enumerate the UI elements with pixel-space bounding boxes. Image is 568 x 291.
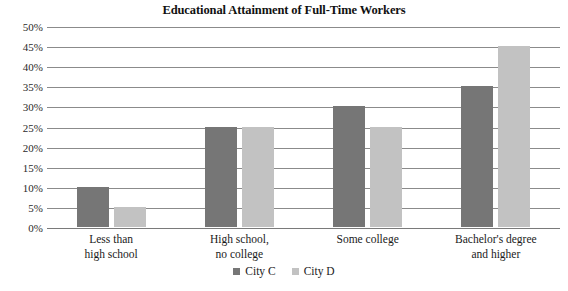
bar-city-d-2[interactable]: [370, 127, 402, 228]
bar-city-c-0[interactable]: [77, 187, 109, 227]
legend-swatch-icon: [292, 268, 299, 275]
chart-container: Educational Attainment of Full-Time Work…: [0, 0, 568, 291]
y-axis-tick-label: 10%: [0, 182, 43, 193]
y-axis-tick-label: 50%: [0, 22, 43, 33]
y-axis-tick-label: 25%: [0, 122, 43, 133]
y-axis-tick-label: 35%: [0, 82, 43, 93]
bar-group: [432, 27, 560, 228]
x-axis-category-label-line: Bachelor's degree: [432, 232, 560, 247]
legend-label: City C: [245, 265, 275, 278]
bars-layer: [47, 27, 560, 228]
x-axis-category-label: Bachelor's degreeand higher: [432, 232, 560, 262]
bar-city-d-3[interactable]: [498, 46, 530, 227]
x-axis-category-label: Less thanhigh school: [47, 232, 175, 262]
chart-title: Educational Attainment of Full-Time Work…: [0, 3, 568, 18]
legend-item-city-c[interactable]: City C: [233, 265, 275, 278]
bar-city-c-1[interactable]: [205, 127, 237, 228]
bar-city-c-3[interactable]: [461, 86, 493, 227]
x-axis-category-label-line: High school,: [175, 232, 303, 247]
y-axis-tick-label: 0%: [0, 223, 43, 234]
y-axis-tick-label: 15%: [0, 162, 43, 173]
x-axis-category-label: High school,no college: [175, 232, 303, 262]
y-axis-tick-label: 20%: [0, 142, 43, 153]
bar-group: [47, 27, 175, 228]
legend-swatch-icon: [233, 268, 240, 275]
y-axis: 50%45%40%35%30%25%20%15%10%5%0%: [0, 27, 43, 228]
x-axis: Less thanhigh schoolHigh school,no colle…: [47, 232, 560, 268]
bar-group: [304, 27, 432, 228]
bar-city-d-0[interactable]: [114, 207, 146, 227]
y-axis-tick-label: 5%: [0, 202, 43, 213]
x-axis-category-label-line: no college: [175, 247, 303, 262]
x-axis-category-label: Some college: [304, 232, 432, 247]
legend-label: City D: [304, 265, 335, 278]
y-axis-tick-label: 40%: [0, 62, 43, 73]
bar-group: [175, 27, 303, 228]
x-axis-category-label-line: and higher: [432, 247, 560, 262]
y-axis-tick-label: 45%: [0, 42, 43, 53]
bar-city-d-1[interactable]: [242, 127, 274, 228]
plot-area: [47, 27, 560, 228]
bar-city-c-2[interactable]: [333, 106, 365, 227]
x-axis-category-label-line: high school: [47, 247, 175, 262]
y-axis-tick-label: 30%: [0, 102, 43, 113]
x-axis-category-label-line: Less than: [47, 232, 175, 247]
gridline: [47, 228, 560, 229]
legend-item-city-d[interactable]: City D: [292, 265, 335, 278]
x-axis-category-label-line: Some college: [304, 232, 432, 247]
chart-legend: City CCity D: [0, 265, 568, 278]
